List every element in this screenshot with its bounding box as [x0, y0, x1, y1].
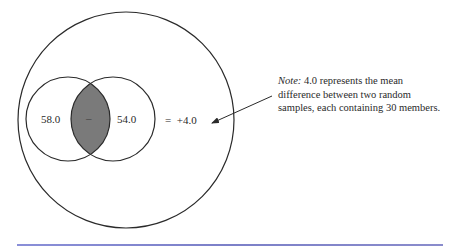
right-sample-value: 54.0: [117, 113, 136, 125]
difference-result: = +4.0: [165, 114, 197, 126]
venn-diagram: [0, 0, 469, 250]
note-text-1: 4.0 represents the mean: [301, 75, 403, 86]
overlap-minus-sign: –: [86, 112, 92, 124]
note-annotation: Note: 4.0 represents the mean difference…: [278, 74, 468, 115]
note-label: Note:: [278, 75, 301, 86]
note-line-2: difference between two random: [278, 88, 468, 102]
note-line-1: Note: 4.0 represents the mean: [278, 74, 468, 88]
left-sample-value: 58.0: [41, 113, 60, 125]
note-arrow: [212, 96, 272, 123]
note-line-3: samples, each containing 30 members.: [278, 101, 468, 115]
bottom-rule-divider: [17, 244, 443, 246]
